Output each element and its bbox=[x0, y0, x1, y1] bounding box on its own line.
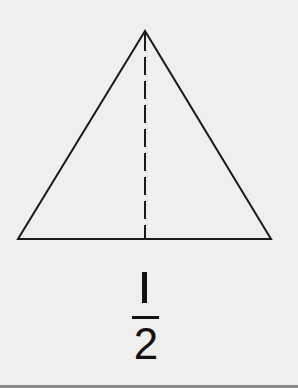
fraction-numerator bbox=[120, 266, 172, 306]
fraction-denominator: 2 bbox=[120, 320, 172, 368]
fraction-label: 2 bbox=[120, 266, 172, 306]
fraction-diagram: 2 bbox=[0, 0, 298, 388]
numerator-one-glyph bbox=[142, 272, 147, 303]
